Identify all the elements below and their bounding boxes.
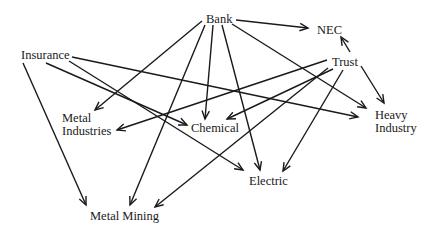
node-heavy-industry: HeavyIndustry (375, 109, 417, 135)
node-chemical: Chemical (191, 122, 239, 135)
arrowhead-icon (283, 162, 290, 171)
node-label: Bank (206, 12, 232, 26)
node-bank: Bank (206, 13, 232, 26)
node-label-line1: Heavy (375, 108, 408, 122)
node-electric: Electric (249, 175, 288, 188)
edge-arrow (236, 20, 308, 31)
node-label-line2: Industries (62, 124, 111, 138)
node-metal-mining: Metal Mining (90, 210, 159, 223)
node-label: Insurance (21, 48, 70, 62)
edge-arrow (130, 25, 205, 205)
node-label-line1: Metal (62, 111, 91, 125)
node-insurance: Insurance (21, 49, 70, 62)
node-metal-industries: MetalIndustries (62, 112, 111, 138)
edge-arrow (72, 57, 358, 119)
node-trust: Trust (332, 56, 358, 69)
node-label: Trust (332, 55, 358, 69)
node-label: Chemical (191, 121, 239, 135)
node-label: Electric (249, 174, 288, 188)
node-label: Metal Mining (90, 209, 159, 223)
node-label-line2: Industry (375, 121, 417, 135)
node-nec: NEC (317, 24, 342, 37)
edge-arrow (202, 25, 213, 119)
arrowhead-icon (377, 94, 384, 103)
edge-arrow (341, 37, 350, 52)
edge-arrow (283, 70, 343, 171)
arrowhead-icon (357, 101, 366, 108)
arrowhead-icon (341, 37, 348, 46)
edge-arrow (361, 66, 384, 103)
arrowhead-icon (234, 163, 243, 170)
node-label: NEC (317, 23, 342, 37)
